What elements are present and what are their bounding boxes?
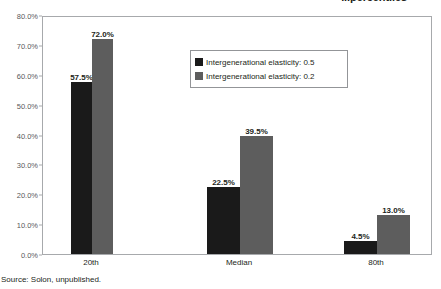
y-axis-tick-label: 0.0% — [0, 251, 38, 260]
legend-label: Intergenerational elasticity: 0.5 — [206, 58, 315, 67]
bar-value-label: 57.5% — [70, 73, 93, 82]
x-axis: 20thMedian80th — [42, 258, 432, 274]
y-axis-tick-label: 10.0% — [0, 221, 38, 230]
bar-value-label: 72.0% — [91, 30, 114, 39]
bar-median-series1[interactable] — [240, 136, 273, 254]
bar-value-label: 4.5% — [351, 232, 369, 241]
y-axis: 0.0%10.0%20.0%30.0%40.0%50.0%60.0%70.0%8… — [0, 16, 42, 255]
x-axis-tick-label: Median — [226, 258, 252, 267]
chart-title: ...percentiles — [0, 0, 441, 3]
bar-value-label: 39.5% — [245, 127, 268, 136]
legend-item[interactable]: Intergenerational elasticity: 0.5 — [195, 55, 342, 69]
y-axis-tick-label: 70.0% — [0, 41, 38, 50]
bar-20th-series1[interactable] — [92, 39, 113, 254]
legend-swatch-icon — [195, 72, 203, 80]
x-axis-tick-label: 20th — [83, 258, 99, 267]
chart-legend: Intergenerational elasticity: 0.5 Interg… — [190, 50, 348, 88]
legend-swatch-icon — [195, 58, 203, 66]
y-axis-tick-label: 60.0% — [0, 71, 38, 80]
legend-label: Intergenerational elasticity: 0.2 — [206, 72, 315, 81]
bar-80th-series0[interactable] — [344, 241, 377, 254]
bar-80th-series1[interactable] — [377, 215, 410, 254]
y-axis-tick-label: 40.0% — [0, 131, 38, 140]
source-note: Source: Solon, unpublished. — [1, 275, 101, 284]
y-axis-tick-label: 80.0% — [0, 12, 38, 21]
legend-item[interactable]: Intergenerational elasticity: 0.2 — [195, 69, 342, 83]
bar-20th-series0[interactable] — [71, 82, 92, 254]
bar-median-series0[interactable] — [207, 187, 240, 254]
y-axis-tick-label: 30.0% — [0, 161, 38, 170]
y-axis-tick-label: 20.0% — [0, 191, 38, 200]
bar-value-label: 13.0% — [382, 206, 405, 215]
x-axis-tick-label: 80th — [368, 258, 384, 267]
bar-value-label: 22.5% — [212, 178, 235, 187]
y-axis-tick-label: 50.0% — [0, 101, 38, 110]
